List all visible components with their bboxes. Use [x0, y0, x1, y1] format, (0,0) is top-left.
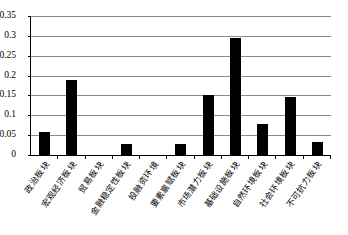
y-axis-tick-label: 0.3	[0, 31, 16, 41]
bar	[230, 38, 241, 155]
bar-slot	[249, 16, 276, 155]
bar-slot	[222, 16, 249, 155]
plot-area	[30, 16, 331, 156]
bar-slot	[167, 16, 194, 155]
x-label-slot: 宏观经济板块	[57, 158, 84, 234]
y-axis-tick-label: 0.25	[0, 51, 16, 61]
bar-slot	[58, 16, 85, 155]
bar-series	[31, 16, 331, 155]
bar-slot	[140, 16, 167, 155]
bar	[257, 124, 268, 155]
y-axis-tick-label: 0.05	[0, 130, 16, 140]
bar	[39, 132, 50, 155]
y-axis-tick-label: 0.35	[0, 11, 16, 21]
bar	[285, 97, 296, 155]
bar	[66, 80, 77, 155]
y-tick-mark	[28, 155, 31, 156]
bar-slot	[304, 16, 331, 155]
bar	[203, 95, 214, 155]
bar-slot	[113, 16, 140, 155]
bar-slot	[195, 16, 222, 155]
x-axis-category-label: 政治板块	[23, 160, 51, 195]
x-tick-mark	[330, 155, 331, 159]
bar-slot	[276, 16, 303, 155]
y-axis-tick-label: 0.1	[0, 110, 16, 120]
bar	[121, 144, 132, 155]
bar-slot	[86, 16, 113, 155]
y-axis-tick-label: 0.2	[0, 71, 16, 81]
x-axis-labels: 政治板块宏观经济板块贸易板块金融稳定性板块投融资环境要素禀赋板块市场潜力板块基础…	[30, 158, 330, 234]
x-label-slot: 不可抗力板块	[303, 158, 330, 234]
y-axis-tick-label: 0	[0, 150, 16, 160]
bar-slot	[31, 16, 58, 155]
y-axis-tick-label: 0.15	[0, 90, 16, 100]
bar	[175, 144, 186, 155]
bar-chart: 00.050.10.150.20.250.30.35 政治板块宏观经济板块贸易板…	[0, 0, 348, 235]
bar	[312, 142, 323, 155]
